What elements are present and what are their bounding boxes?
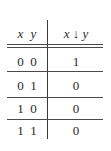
table-row-inputs: 01 — [10, 79, 44, 93]
header-rule-bottom — [7, 47, 103, 48]
cell-x: 1 — [14, 124, 27, 138]
header-y: y — [27, 27, 40, 41]
table-row-inputs: 00 — [10, 55, 44, 69]
header-output: x ↓ y — [50, 27, 102, 41]
table-row-result: 0 — [50, 124, 102, 138]
cell-y: 1 — [27, 79, 40, 93]
table-row-result: 1 — [50, 55, 102, 69]
table-row-result: 0 — [50, 102, 102, 116]
table-row-result: 0 — [50, 79, 102, 93]
table-row-inputs: 10 — [10, 102, 44, 116]
cell-y: 0 — [27, 102, 40, 116]
cell-y: 1 — [27, 124, 40, 138]
header-x: x — [14, 27, 27, 41]
cell-x: 0 — [14, 55, 27, 69]
cell-x: 0 — [14, 79, 27, 93]
header-inputs: xy — [10, 27, 44, 41]
row-rule — [7, 119, 103, 120]
column-divider — [47, 20, 48, 139]
cell-x: 1 — [14, 102, 27, 116]
row-rule — [7, 71, 103, 72]
table-row-inputs: 11 — [10, 124, 44, 138]
cell-y: 0 — [27, 55, 40, 69]
header-rule-top — [7, 44, 103, 45]
row-rule — [7, 97, 103, 98]
